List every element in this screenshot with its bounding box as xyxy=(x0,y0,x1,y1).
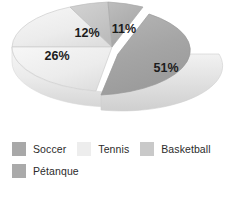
pie-label-tennis: 26% xyxy=(44,49,69,63)
chart-legend: Soccer Tennis Basketball Pétanque xyxy=(0,134,225,201)
legend-label-petanque: Pétanque xyxy=(33,165,79,177)
pie-label-petanque: 11% xyxy=(112,22,136,36)
legend-item-tennis[interactable]: Tennis xyxy=(77,142,129,156)
legend-label-basketball: Basketball xyxy=(161,143,210,155)
legend-item-basketball[interactable]: Basketball xyxy=(140,142,210,156)
pie-plot-area: 51% 26% 12% 11% xyxy=(0,0,225,132)
legend-swatch-petanque xyxy=(12,164,26,178)
legend-item-petanque[interactable]: Pétanque xyxy=(12,164,79,178)
legend-label-tennis: Tennis xyxy=(98,143,129,155)
legend-row: Pétanque xyxy=(12,160,225,182)
pie-svg: 51% 26% 12% 11% xyxy=(0,0,225,132)
legend-swatch-tennis xyxy=(77,142,91,156)
legend-item-soccer[interactable]: Soccer xyxy=(12,142,66,156)
pie-label-soccer: 51% xyxy=(153,61,178,75)
pie-label-basketball: 12% xyxy=(74,26,99,40)
pie-chart: 51% 26% 12% 11% Soccer Tennis Basketball xyxy=(0,0,225,201)
legend-label-soccer: Soccer xyxy=(33,143,66,155)
legend-swatch-basketball xyxy=(140,142,154,156)
legend-swatch-soccer xyxy=(12,142,26,156)
legend-row: Soccer Tennis Basketball xyxy=(12,138,225,160)
